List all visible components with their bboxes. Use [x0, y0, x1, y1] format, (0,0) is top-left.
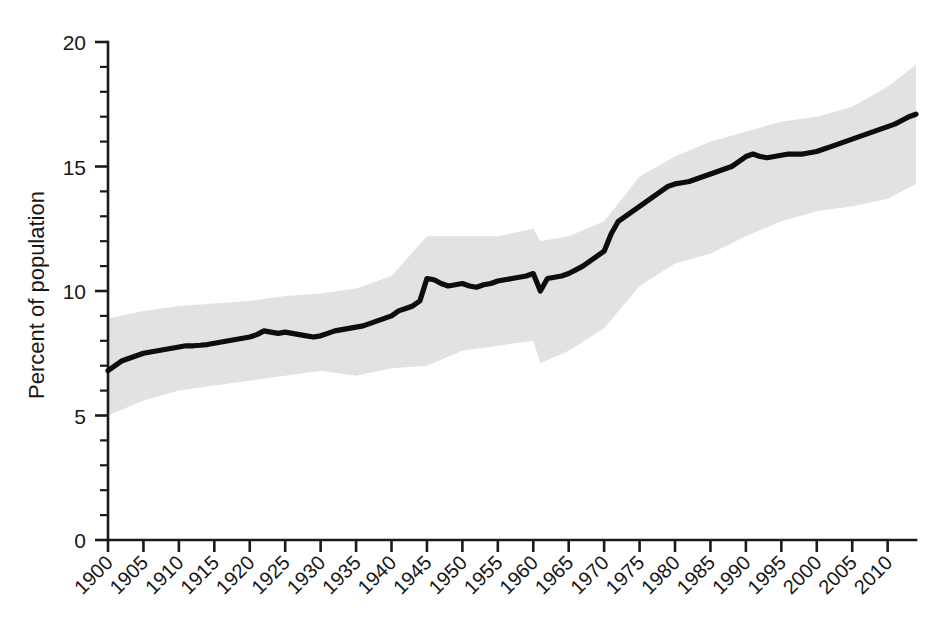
- x-tick-label: 1960: [495, 551, 542, 598]
- y-axis-tick-labels: 05101520: [63, 31, 86, 552]
- x-tick-label: 1935: [318, 551, 365, 598]
- y-axis-title: Percent of population: [24, 191, 49, 399]
- x-tick-label: 1905: [105, 551, 152, 598]
- x-tick-label: 1910: [141, 551, 188, 598]
- x-tick-label: 1985: [672, 551, 719, 598]
- x-axis-ticks: [108, 540, 888, 552]
- y-tick-label: 5: [74, 405, 86, 428]
- chart-container: 05101520 1900190519101915192019251930193…: [0, 0, 946, 635]
- x-axis-tick-labels: 1900190519101915192019251930193519401945…: [70, 551, 897, 598]
- confidence-band-group: [108, 64, 916, 415]
- y-tick-label: 0: [74, 529, 86, 552]
- x-tick-label: 1995: [743, 551, 790, 598]
- y-tick-label: 15: [63, 156, 86, 179]
- x-tick-label: 1900: [70, 551, 117, 598]
- x-tick-label: 1930: [282, 551, 329, 598]
- x-tick-label: 1980: [637, 551, 684, 598]
- x-tick-label: 1920: [212, 551, 259, 598]
- x-tick-label: 1965: [531, 551, 578, 598]
- x-tick-label: 1970: [566, 551, 613, 598]
- x-tick-label: 1975: [601, 551, 648, 598]
- x-tick-label: 1945: [389, 551, 436, 598]
- x-tick-label: 2010: [849, 551, 896, 598]
- y-tick-label: 10: [63, 280, 86, 303]
- y-tick-label: 20: [63, 31, 86, 54]
- x-tick-label: 1955: [460, 551, 507, 598]
- line-chart-plot: 05101520 1900190519101915192019251930193…: [0, 0, 946, 635]
- x-tick-label: 1925: [247, 551, 294, 598]
- x-tick-label: 1990: [708, 551, 755, 598]
- x-tick-label: 1915: [176, 551, 223, 598]
- y-axis-ticks: [95, 42, 108, 540]
- confidence-band: [108, 64, 916, 415]
- x-tick-label: 2000: [779, 551, 826, 598]
- x-tick-label: 1940: [353, 551, 400, 598]
- y-axis-title-group: Percent of population: [24, 191, 49, 399]
- x-tick-label: 1950: [424, 551, 471, 598]
- x-tick-label: 2005: [814, 551, 861, 598]
